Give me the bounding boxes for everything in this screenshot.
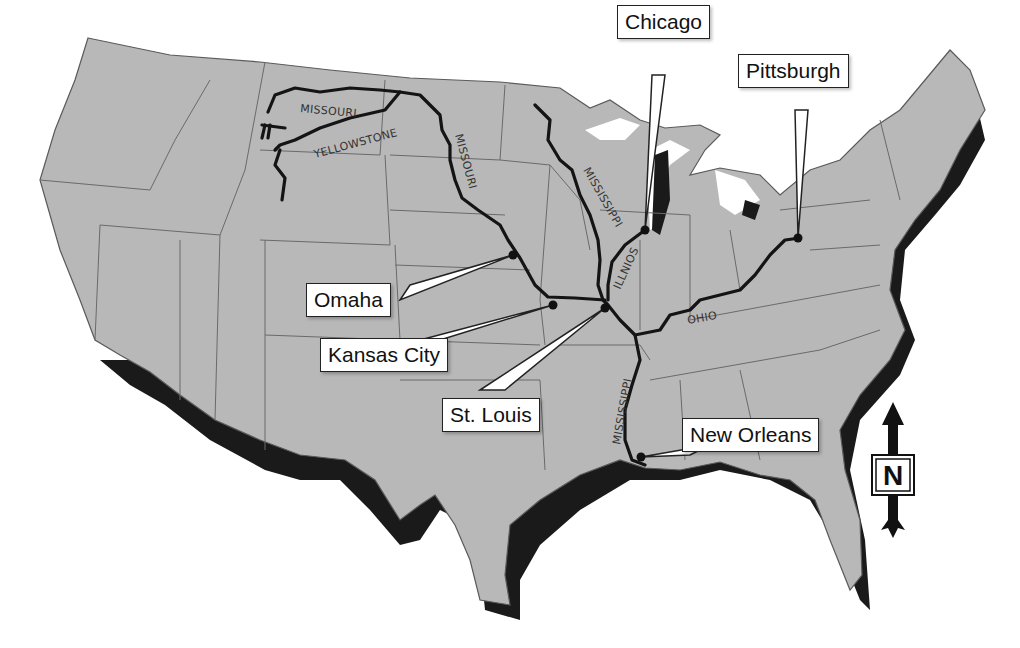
compass-rose: N [872,402,914,538]
map-land [40,38,985,605]
svg-text:N: N [883,460,903,491]
city-label-chicago: Chicago [617,5,710,39]
city-label-omaha: Omaha [306,283,391,317]
us-map: MISSOURI YELLOWSTONE MISSOURI MISSISSIPP… [0,0,1020,648]
city-label-pittsburgh: Pittsburgh [738,54,849,88]
city-label-kansas-city: Kansas City [320,338,448,372]
city-label-new-orleans: New Orleans [682,418,819,452]
city-label-st-louis: St. Louis [442,398,540,432]
